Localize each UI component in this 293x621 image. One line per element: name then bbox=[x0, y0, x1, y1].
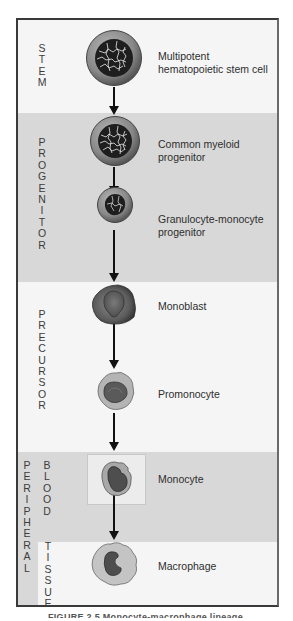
stage-label-tissue: TISSUE bbox=[42, 541, 54, 607]
cell-label-hsc: Multipotenthematopoietic stem cell bbox=[158, 50, 268, 75]
tissue-band bbox=[38, 542, 279, 605]
stage-label-precursor: PRECURSOR bbox=[36, 309, 48, 412]
monocyte-cell-icon bbox=[99, 460, 133, 498]
cell-label-monoblast: Monoblast bbox=[158, 300, 206, 313]
cell-label-promonocyte: Promonocyte bbox=[158, 388, 220, 401]
cell-label-gmp: Granulocyte-monocyteprogenitor bbox=[158, 213, 264, 238]
stage-label-blood: BLOOD bbox=[41, 460, 53, 517]
promonocyte-cell-icon bbox=[94, 370, 136, 412]
gmp-cell-icon bbox=[96, 186, 134, 224]
cell-label-monocyte: Monocyte bbox=[158, 473, 204, 486]
cmp-cell-icon bbox=[89, 115, 141, 167]
hsc-cell-icon bbox=[85, 29, 143, 87]
precursor-band bbox=[18, 282, 277, 452]
cell-label-macrophage: Macrophage bbox=[158, 560, 216, 573]
macrophage-cell-icon bbox=[91, 541, 139, 587]
diagram-frame: STEM PROGENITOR PRECURSOR PERIPHERAL BLO… bbox=[16, 18, 279, 607]
stage-label-progenitor: PROGENITOR bbox=[36, 137, 48, 251]
stage-label-stem: STEM bbox=[36, 43, 48, 89]
stage-label-peripheral: PERIPHERAL bbox=[21, 460, 33, 574]
cell-label-cmp: Common myeloidprogenitor bbox=[158, 138, 240, 163]
figure-caption: FIGURE 2.5 Monocyte-macrophage lineage bbox=[48, 613, 243, 618]
monoblast-cell-icon bbox=[90, 283, 138, 325]
